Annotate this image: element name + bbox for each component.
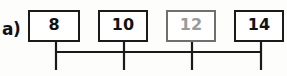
number-sequence-figure: a) 8 10 12 14 [0,0,287,76]
bracket-connector [0,0,287,76]
